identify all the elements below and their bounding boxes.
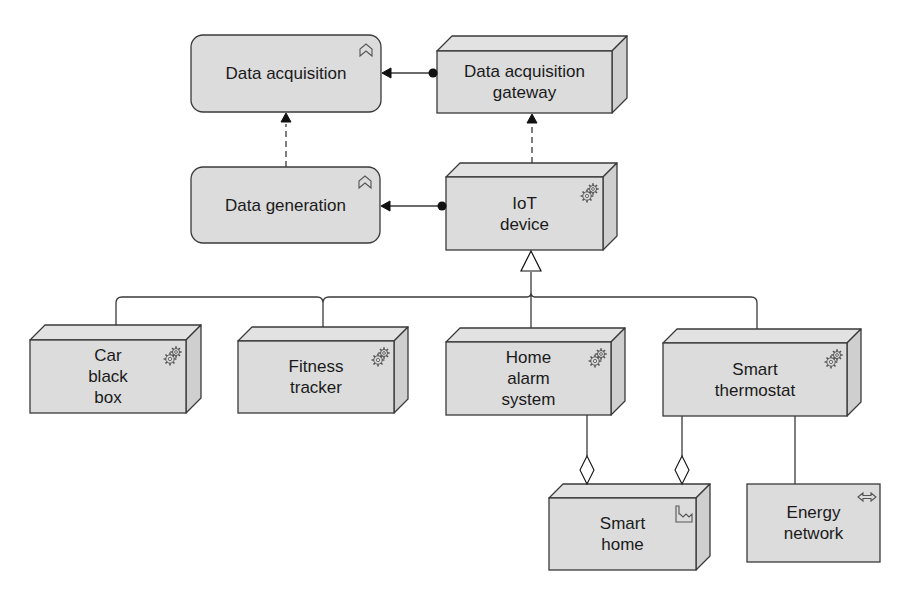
specialization-bus[interactable]: [116, 272, 757, 329]
specialization-triangle: [521, 251, 541, 271]
node-front-face[interactable]: [549, 498, 696, 570]
node-front-face[interactable]: [663, 343, 847, 416]
assignment-arrowhead: [381, 201, 390, 211]
node-top-face[interactable]: [549, 484, 710, 498]
node-side-face[interactable]: [186, 325, 201, 413]
node-side-face[interactable]: [696, 484, 710, 570]
assignment-arrowhead: [382, 68, 391, 78]
element-data-generation[interactable]: [191, 167, 380, 243]
element-home-alarm-system[interactable]: [446, 328, 625, 415]
node-top-face[interactable]: [446, 328, 625, 342]
diagram-canvas: [0, 0, 908, 595]
node-side-face[interactable]: [603, 163, 617, 250]
element-energy-network[interactable]: [747, 484, 880, 562]
node-front-face[interactable]: [238, 341, 394, 413]
relationships-layer: [116, 73, 795, 484]
node-front-face[interactable]: [446, 177, 603, 250]
node-top-face[interactable]: [446, 163, 617, 177]
node-side-face[interactable]: [394, 327, 408, 413]
element-iot-device[interactable]: [446, 163, 617, 250]
node-side-face[interactable]: [847, 329, 861, 416]
node-side-face[interactable]: [611, 328, 625, 415]
element-smart-thermostat[interactable]: [663, 329, 861, 416]
node-top-face[interactable]: [663, 329, 861, 343]
element-smart-home[interactable]: [549, 484, 710, 570]
realization-arrowhead: [281, 113, 291, 122]
node-top-face[interactable]: [437, 36, 627, 51]
element-car-black-box[interactable]: [30, 325, 201, 413]
element-data-acquisition[interactable]: [191, 35, 381, 112]
realization-arrowhead: [527, 114, 537, 123]
node-front-face[interactable]: [30, 340, 186, 413]
node-front-face[interactable]: [437, 51, 612, 113]
function-shape[interactable]: [191, 167, 380, 243]
aggregation-diamond: [675, 456, 689, 484]
node-front-face[interactable]: [446, 342, 611, 415]
node-top-face[interactable]: [238, 327, 408, 341]
element-data-acquisition-gateway[interactable]: [437, 36, 627, 113]
element-fitness-tracker[interactable]: [238, 327, 408, 413]
node-top-face[interactable]: [30, 325, 201, 340]
assignment-source-dot: [438, 202, 447, 211]
elements-layer: [30, 35, 880, 570]
edge-decorations-layer: [281, 68, 689, 484]
function-shape[interactable]: [191, 35, 381, 112]
assignment-source-dot: [429, 69, 438, 78]
aggregation-diamond: [580, 456, 594, 484]
